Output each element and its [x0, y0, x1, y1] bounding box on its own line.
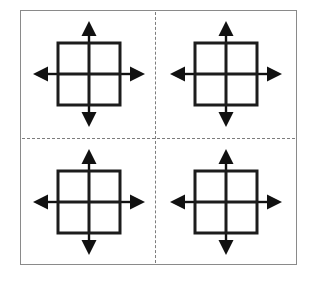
figure-root [0, 0, 313, 283]
grid-square-with-arrows-bottom-right [164, 143, 288, 261]
grid-square-2x2 [195, 171, 257, 233]
grid-square-2x2 [195, 43, 257, 105]
quadrant-top-left [20, 10, 157, 137]
grid-square-2x2 [58, 43, 120, 105]
quadrant-bottom-left [20, 138, 157, 265]
grid-square-with-arrows-bottom-left [27, 143, 151, 261]
grid-square-with-arrows-top-right [164, 15, 288, 133]
quadrant-top-right [157, 10, 294, 137]
grid-square-2x2 [58, 171, 120, 233]
quadrant-bottom-right [157, 138, 294, 265]
grid-square-with-arrows-top-left [27, 15, 151, 133]
